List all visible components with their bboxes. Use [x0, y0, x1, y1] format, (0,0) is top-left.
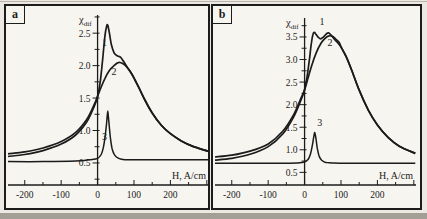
y-tick-label: 3.5	[286, 32, 298, 42]
y-tick-label: 2.0	[79, 61, 91, 71]
y-tick-label: 3.0	[286, 55, 298, 65]
x-axis-title: H, A/cm	[172, 170, 206, 181]
x-tick-label: 100	[334, 190, 349, 200]
x-tick-label: -100	[259, 190, 277, 200]
y-axis-title: χdif	[285, 17, 299, 31]
curve-3	[8, 111, 208, 162]
curve-1	[215, 32, 415, 160]
x-tick-label: 0	[302, 190, 307, 200]
panel-b: b -200-10001002000.51.01.52.02.53.03.5χd…	[211, 4, 422, 210]
y-tick-label: 0.5	[286, 168, 298, 178]
x-tick-label: 100	[127, 190, 142, 200]
x-tick-label: -100	[52, 190, 70, 200]
curve-2	[215, 36, 415, 157]
x-tick-label: -200	[16, 190, 34, 200]
scan-edge-top	[0, 1, 427, 2]
curve-label-1: 1	[102, 37, 107, 48]
panel-a: a -200-10001002000.51.01.52.02.5χdifH, A…	[4, 4, 210, 210]
curve-3	[215, 133, 415, 164]
curve-label-3: 3	[102, 131, 107, 142]
panel-a-tag: a	[6, 6, 25, 24]
panel-a-plot: -200-10001002000.51.01.52.02.5χdifH, A/c…	[6, 6, 208, 208]
x-tick-label: 0	[95, 190, 100, 200]
y-tick-label: 1.0	[286, 145, 298, 155]
panel-b-tag: b	[213, 6, 232, 24]
y-axis-title: χdif	[78, 14, 92, 28]
curve-label-2: 2	[111, 66, 116, 77]
curve-2	[8, 62, 208, 154]
x-axis-title: H, A/cm	[379, 170, 413, 181]
curve-label-2: 2	[328, 37, 333, 48]
curve-1	[8, 25, 208, 157]
x-tick-label: -200	[223, 190, 241, 200]
y-tick-label: 2.5	[79, 29, 91, 39]
scan-edge-bottom	[0, 213, 427, 219]
curve-label-3: 3	[317, 117, 322, 128]
panel-b-plot: -200-10001002000.51.01.52.02.53.03.5χdif…	[213, 6, 420, 208]
x-tick-label: 200	[163, 190, 178, 200]
curve-label-1: 1	[320, 16, 325, 27]
y-tick-label: 2.5	[286, 78, 298, 88]
figure: a -200-10001002000.51.01.52.02.5χdifH, A…	[0, 0, 427, 219]
x-tick-label: 200	[370, 190, 385, 200]
y-tick-label: 1.5	[79, 94, 91, 104]
